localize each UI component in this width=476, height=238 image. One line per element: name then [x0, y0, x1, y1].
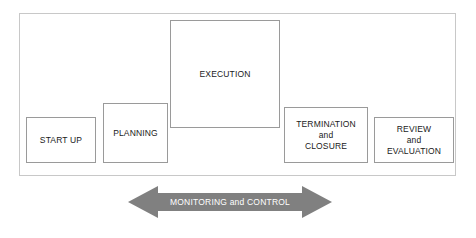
- phase-box-planning[interactable]: PLANNING: [103, 103, 168, 163]
- phase-box-start-up[interactable]: START UP: [26, 117, 96, 163]
- phase-label-planning: PLANNING: [111, 128, 160, 139]
- monitoring-and-control-arrow[interactable]: MONITORING and CONTROL: [128, 186, 332, 218]
- phase-label-termination-and-closure: TERMINATION and CLOSURE: [294, 119, 358, 152]
- phase-label-start-up: START UP: [38, 135, 84, 146]
- phase-box-review-and-evaluation[interactable]: REVIEW and EVALUATION: [374, 117, 454, 163]
- phase-box-termination-and-closure[interactable]: TERMINATION and CLOSURE: [284, 107, 368, 163]
- double-headed-arrow-icon: [128, 186, 332, 218]
- project-lifecycle-diagram: START UP PLANNING EXECUTION TERMINATION …: [0, 0, 476, 238]
- phase-label-execution: EXECUTION: [198, 69, 253, 80]
- phase-label-review-and-evaluation: REVIEW and EVALUATION: [385, 124, 443, 157]
- phase-box-execution[interactable]: EXECUTION: [170, 20, 280, 128]
